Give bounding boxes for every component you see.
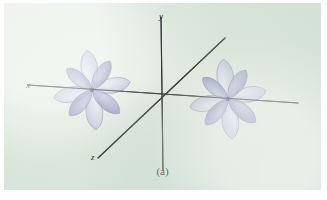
- figure-stage: x y z (a): [4, 3, 321, 190]
- figure-plate: x y z (a): [4, 3, 321, 190]
- axis-label-y: y: [159, 12, 163, 21]
- axis-label-x: x: [26, 81, 30, 90]
- right-orbital-set: [188, 58, 267, 139]
- axis-label-z: z: [91, 153, 95, 162]
- orbital-diagram: [4, 3, 321, 190]
- figure-caption: (a): [4, 165, 321, 177]
- orbitals-layer: [52, 49, 267, 139]
- right-orbital-set-nucleus: [226, 97, 230, 101]
- orbital-figure: x y z (a): [0, 0, 327, 200]
- left-orbital-set-nucleus: [90, 88, 94, 92]
- left-orbital-set: [52, 49, 131, 130]
